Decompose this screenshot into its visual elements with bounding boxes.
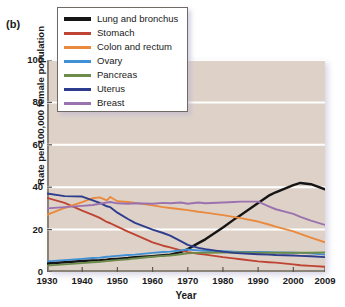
legend-swatch [64,46,91,49]
legend-label: Pancreas [97,69,137,81]
x-tick-label: 1940 [65,275,99,286]
x-tick-label: 1980 [206,275,240,286]
legend-item[interactable]: Pancreas [62,68,183,82]
x-tick-label: 1970 [171,275,205,286]
legend-item[interactable]: Colon and rectum [62,40,183,54]
x-tick-label: 1950 [100,275,134,286]
legend-label: Breast [97,97,124,109]
x-tick-label: 2000 [276,275,310,286]
x-tick-label: 1960 [136,275,170,286]
legend-item[interactable]: Stomach [62,26,183,40]
legend-item[interactable]: Breast [62,96,183,110]
legend-label: Colon and rectum [97,41,172,53]
legend-swatch [64,17,91,21]
x-tick-label: 1990 [241,275,275,286]
x-tick-label: 2009 [308,275,342,286]
chart-legend: Lung and bronchusStomachColon and rectum… [57,7,188,112]
legend-item[interactable]: Uterus [62,82,183,96]
legend-swatch [64,60,91,63]
legend-label: Ovary [97,55,122,67]
legend-swatch [64,74,91,77]
legend-item[interactable]: Ovary [62,54,183,68]
legend-label: Lung and bronchus [97,13,178,25]
x-axis-label: Year [47,290,325,301]
legend-label: Uterus [97,83,125,95]
legend-swatch [64,88,91,91]
legend-item[interactable]: Lung and bronchus [62,12,183,26]
x-tick-label: 1930 [30,275,64,286]
legend-swatch [64,32,91,35]
legend-swatch [64,102,91,105]
figure-panel: (b) Rate per 100,000 female population 0… [0,0,345,307]
legend-label: Stomach [97,27,135,39]
